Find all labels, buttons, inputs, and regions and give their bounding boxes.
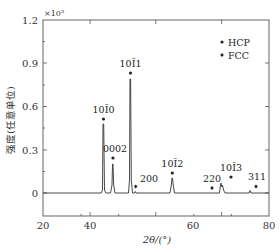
peak-label-1013: 10Ī3: [220, 162, 242, 173]
peak-label-0002: 0002: [103, 143, 127, 154]
peak-label-220: 220: [203, 173, 221, 184]
peak-label-200: 200: [140, 173, 158, 184]
legend-fcc-marker: [220, 53, 224, 57]
y-tick-0: 0: [32, 188, 38, 199]
y-tick-0.3: 0.3: [22, 145, 38, 156]
y-axis-label: 强度(任意单位): [5, 86, 16, 153]
peak-label-1011: 10Ī1: [120, 58, 142, 69]
legend-fcc-label: FCC: [228, 50, 249, 61]
fcc-markers: [134, 185, 258, 191]
peak-label-1012: 10Ī2: [161, 158, 183, 169]
marker-1011: [129, 71, 132, 74]
y-tick-1.2: 1.2: [22, 15, 38, 26]
x-tick-60: 60: [187, 220, 200, 231]
x-tick-80: 80: [263, 220, 276, 231]
peak-label-311: 311: [248, 171, 266, 182]
xrd-chart: 20 40 60 80 0 0.3 0.6 0.9 1.2 ×10⁵ 2θ/(°…: [0, 0, 280, 251]
y-tick-0.6: 0.6: [22, 101, 38, 112]
legend: HCP FCC: [220, 37, 250, 61]
marker-220: [210, 186, 214, 190]
marker-311: [254, 185, 258, 189]
x-tick-20: 20: [37, 220, 50, 231]
marker-1010: [102, 117, 105, 120]
y-tick-0.9: 0.9: [22, 58, 38, 69]
legend-hcp-marker: [220, 40, 223, 43]
y-multiplier: ×10⁵: [44, 9, 64, 18]
peak-label-1010: 10Ī0: [93, 104, 115, 115]
x-tick-40: 40: [84, 220, 97, 231]
marker-1013: [229, 175, 232, 178]
legend-hcp-label: HCP: [228, 37, 251, 48]
marker-0002: [111, 156, 114, 159]
x-axis-label: 2θ/(°): [142, 234, 172, 245]
marker-200: [134, 185, 138, 189]
marker-1012: [171, 171, 174, 174]
